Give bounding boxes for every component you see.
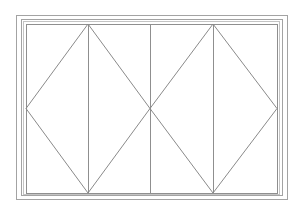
frame-3 xyxy=(24,22,280,195)
inner-frame xyxy=(27,25,278,194)
window-elevation-diagram xyxy=(0,0,303,207)
diagram-canvas xyxy=(0,0,303,207)
frame-2 xyxy=(22,20,283,196)
frame-lines xyxy=(17,16,288,200)
opening-indicators xyxy=(26,24,277,193)
outer-frame xyxy=(17,16,288,200)
